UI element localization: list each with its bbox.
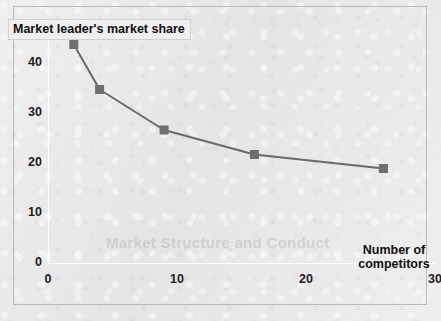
x-axis-title-line-2: competitors	[355, 257, 433, 271]
x-axis-tick-labels: 0102030	[0, 0, 441, 321]
x-axis-title: Number of competitors	[355, 243, 433, 271]
x-axis-title-line-1: Number of	[355, 243, 433, 257]
x-tick-label: 20	[299, 272, 313, 286]
y-axis-title: Market leader's market share	[8, 19, 191, 40]
x-tick-label: 0	[45, 272, 52, 286]
chart-figure: Market Structure and Conduct 010203040 0…	[0, 0, 441, 321]
x-tick-label: 10	[170, 272, 184, 286]
x-tick-label: 30	[428, 272, 441, 286]
